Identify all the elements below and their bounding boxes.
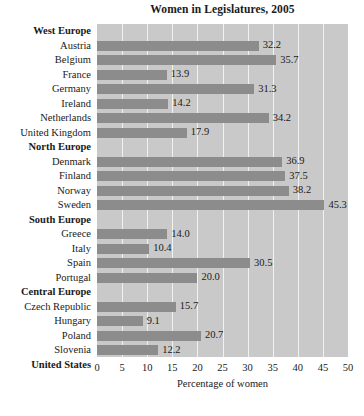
bar-value-label: 31.3: [258, 82, 276, 97]
y-axis-label: Spain: [0, 256, 94, 271]
y-axis-label: Portugal: [0, 271, 94, 286]
bar-value-label: 17.9: [191, 125, 209, 140]
x-axis-tick-label: 10: [136, 360, 158, 376]
chart-row: 14.0: [97, 227, 348, 242]
x-axis-title: Percentage of women: [97, 378, 348, 389]
y-axis-labels: West EuropeAustriaBelgiumFranceGermanyIr…: [0, 24, 94, 357]
bar-value-label: 9.1: [147, 314, 160, 329]
chart-row: 36.9: [97, 155, 348, 170]
plot-area: 32.235.713.931.314.234.217.936.937.538.2…: [97, 24, 348, 357]
bar: [97, 84, 254, 94]
bar: [97, 331, 201, 341]
chart-row: [97, 24, 348, 39]
y-axis-label: Norway: [0, 184, 94, 199]
bar: [97, 113, 269, 123]
x-axis-tick-label: 20: [186, 360, 208, 376]
chart-row: [97, 140, 348, 155]
chart-row: [97, 285, 348, 300]
y-axis-label: United States: [0, 358, 94, 373]
x-axis-tick-label: 45: [312, 360, 334, 376]
y-axis-label: Austria: [0, 39, 94, 54]
bar-value-label: 20.7: [205, 328, 223, 343]
bar-value-label: 45.3: [328, 198, 346, 213]
bar: [97, 128, 187, 138]
chart-row: 13.9: [97, 68, 348, 83]
chart-row: 35.7: [97, 53, 348, 68]
x-axis-tick-label: 40: [287, 360, 309, 376]
bar: [97, 200, 324, 210]
bar: [97, 316, 143, 326]
y-axis-label: South Europe: [0, 213, 94, 228]
chart-row: 45.3: [97, 198, 348, 213]
bar-value-label: 30.5: [254, 256, 272, 271]
chart-title: Women in Legislatures, 2005: [97, 3, 348, 15]
y-axis-label: Netherlands: [0, 111, 94, 126]
x-axis-tick-label: 35: [262, 360, 284, 376]
chart-row: 20.7: [97, 329, 348, 344]
x-axis-tick-label: 30: [237, 360, 259, 376]
y-axis-label: North Europe: [0, 140, 94, 155]
y-axis-label: Czech Republic: [0, 300, 94, 315]
chart-row: 20.0: [97, 271, 348, 286]
bar-value-label: 13.9: [171, 67, 189, 82]
bar-value-label: 14.2: [172, 96, 190, 111]
y-axis-label: Central Europe: [0, 285, 94, 300]
y-axis-label: Greece: [0, 227, 94, 242]
x-axis-tick-label: 50: [337, 360, 359, 376]
y-axis-label: Italy: [0, 242, 94, 257]
chart-row: 37.5: [97, 169, 348, 184]
bar-value-label: 37.5: [289, 169, 307, 184]
y-axis-label: Belgium: [0, 53, 94, 68]
x-axis-tick-labels: 05101520253035404550: [97, 360, 348, 376]
bar: [97, 41, 259, 51]
x-axis-tick-label: 15: [161, 360, 183, 376]
bar: [97, 273, 197, 283]
chart-row: 12.2: [97, 343, 348, 357]
chart-row: [97, 213, 348, 228]
bar-value-label: 34.2: [273, 111, 291, 126]
bar: [97, 157, 282, 167]
x-axis-tick-label: 25: [212, 360, 234, 376]
bar: [97, 186, 289, 196]
bar-value-label: 14.0: [171, 227, 189, 242]
bar: [97, 99, 168, 109]
x-axis-tick-label: 0: [86, 360, 108, 376]
y-axis-label: France: [0, 68, 94, 83]
chart-row: 32.2: [97, 39, 348, 54]
y-axis-label: Ireland: [0, 97, 94, 112]
bar: [97, 70, 167, 80]
chart-row: 10.4: [97, 242, 348, 257]
bar-value-label: 32.2: [263, 38, 281, 53]
bar-value-label: 15.7: [180, 299, 198, 314]
chart-row: 14.2: [97, 97, 348, 112]
y-axis-label: Hungary: [0, 314, 94, 329]
chart-row: 15.7: [97, 300, 348, 315]
chart-row: 38.2: [97, 184, 348, 199]
bar: [97, 55, 276, 65]
bar-value-label: 12.2: [162, 343, 180, 358]
y-axis-label: Germany: [0, 82, 94, 97]
y-axis-label: Poland: [0, 329, 94, 344]
bar: [97, 302, 176, 312]
bar: [97, 258, 250, 268]
chart-row: 9.1: [97, 314, 348, 329]
y-axis-label: Slovenia: [0, 343, 94, 358]
bar: [97, 244, 149, 254]
y-axis-label: Sweden: [0, 198, 94, 213]
chart-figure: Women in Legislatures, 2005 West EuropeA…: [0, 0, 364, 416]
y-axis-label: West Europe: [0, 24, 94, 39]
x-axis-tick-label: 5: [111, 360, 133, 376]
bar-value-label: 20.0: [201, 270, 219, 285]
chart-row: 30.5: [97, 256, 348, 271]
y-axis-label: Denmark: [0, 155, 94, 170]
bar-value-label: 36.9: [286, 154, 304, 169]
chart-row: 17.9: [97, 126, 348, 141]
bar-value-label: 38.2: [293, 183, 311, 198]
bar-value-label: 10.4: [153, 241, 171, 256]
bar: [97, 345, 158, 355]
chart-row: 34.2: [97, 111, 348, 126]
bar: [97, 171, 285, 181]
bar: [97, 229, 167, 239]
y-axis-label: United Kingdom: [0, 126, 94, 141]
y-axis-label: Finland: [0, 169, 94, 184]
